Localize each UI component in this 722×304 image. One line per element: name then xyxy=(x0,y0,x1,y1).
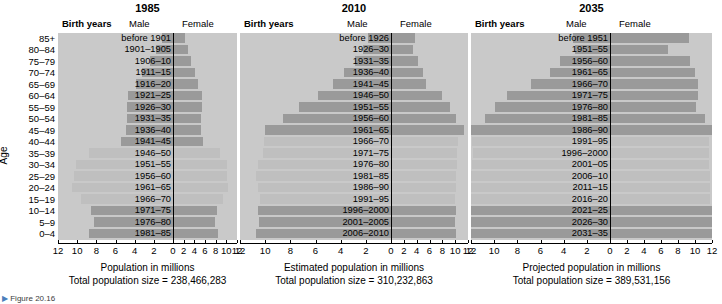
bar-female xyxy=(391,125,464,135)
bar-female xyxy=(391,171,456,181)
bar-female xyxy=(610,45,668,55)
birth-years-label: 1996–2000 xyxy=(240,205,389,216)
bar-female xyxy=(173,68,195,78)
x-axis-label: 6 xyxy=(106,245,126,256)
x-axis-tick xyxy=(455,240,456,243)
bar-female xyxy=(610,91,698,101)
bar-female xyxy=(610,68,695,78)
bar-female xyxy=(391,148,457,158)
birth-years-label: 2021–25 xyxy=(471,205,608,216)
x-axis-label: 12 xyxy=(230,245,250,256)
birth-years-label: 2016–20 xyxy=(471,194,608,205)
age-axis-label: 55–59 xyxy=(29,103,55,113)
x-axis-label: 12 xyxy=(702,245,722,256)
x-axis-tick xyxy=(494,240,495,243)
x-axis-tick xyxy=(341,240,342,243)
total-population-label: Total population size = 238,466,283 xyxy=(58,275,237,286)
birth-years-label: 2026–30 xyxy=(471,217,608,228)
x-axis-label: 10 xyxy=(484,245,504,256)
x-axis-tick xyxy=(226,240,227,243)
birth-years-label: before 1951 xyxy=(471,33,608,44)
x-axis-label: 2 xyxy=(577,245,597,256)
bar-female xyxy=(173,56,191,66)
age-axis-label: 85+ xyxy=(39,34,55,44)
birth-years-label: 1961–65 xyxy=(240,125,389,136)
birth-years-label: 1936–40 xyxy=(240,67,389,78)
x-axis-tick xyxy=(290,240,291,243)
age-axis-label: 80–84 xyxy=(29,45,55,55)
center-axis-line xyxy=(610,33,611,240)
x-axis-line xyxy=(58,243,237,244)
x-axis-label: 12 xyxy=(48,245,68,256)
birth-years-label: 1966–70 xyxy=(240,136,389,147)
bar-female xyxy=(610,148,709,158)
bar-female xyxy=(610,183,710,193)
age-axis-title: Age xyxy=(0,146,9,164)
age-axis-label: 10–14 xyxy=(29,206,55,216)
age-axis-label: 25–29 xyxy=(29,172,55,182)
bar-female xyxy=(610,160,709,170)
x-axis-tick xyxy=(77,240,78,243)
bar-female xyxy=(610,171,710,181)
x-axis-tick xyxy=(194,240,195,243)
birth-years-label: 1971–75 xyxy=(240,148,389,159)
bar-female xyxy=(391,194,455,204)
center-axis-line xyxy=(173,33,174,240)
x-axis-tick xyxy=(135,240,136,243)
x-axis-label: 10 xyxy=(67,245,87,256)
bar-female xyxy=(173,206,217,216)
birth-years-label: 2001–05 xyxy=(471,159,608,170)
bar-female xyxy=(173,137,203,147)
bar-female xyxy=(610,114,705,124)
header-male: Male xyxy=(347,18,368,31)
figure-caption: ▶ Figure 20.16 xyxy=(2,294,55,303)
total-population-label: Total population size = 389,531,156 xyxy=(471,275,712,286)
x-axis-label: 12 xyxy=(461,245,481,256)
header-female: Female xyxy=(619,18,651,31)
x-axis-tick xyxy=(644,240,645,243)
bar-female xyxy=(610,125,712,135)
bar-female xyxy=(173,91,202,101)
bar-female xyxy=(173,125,201,135)
age-axis-label: 30–34 xyxy=(29,160,55,170)
birth-years-label: 1926–30 xyxy=(58,102,171,113)
birth-years-label: 1981–85 xyxy=(240,171,389,182)
x-axis-tick xyxy=(610,240,611,243)
birth-years-label: 1996–2000 xyxy=(471,148,608,159)
birth-years-label: before 1901 xyxy=(58,33,171,44)
bar-female xyxy=(391,33,415,43)
bar-female xyxy=(173,217,215,227)
x-axis-tick xyxy=(627,240,628,243)
x-axis-tick xyxy=(173,240,174,243)
age-axis-label: 15–19 xyxy=(29,195,55,205)
x-axis-tick xyxy=(366,240,367,243)
x-axis-tick xyxy=(430,240,431,243)
bar-female xyxy=(391,45,413,55)
x-axis-line xyxy=(240,243,468,244)
figure-caption-text: Figure 20.16 xyxy=(10,294,55,303)
birth-years-label: 1906–10 xyxy=(58,56,171,67)
bar-female xyxy=(173,160,227,170)
age-axis-label: 65–69 xyxy=(29,80,55,90)
birth-years-label: 1991–95 xyxy=(240,194,389,205)
birth-years-label: 1981–85 xyxy=(471,113,608,124)
x-axis-tick xyxy=(468,240,469,243)
x-axis-tick xyxy=(587,240,588,243)
birth-years-label: 1971–75 xyxy=(58,205,171,216)
age-axis-label: 20–24 xyxy=(29,183,55,193)
x-axis-tick xyxy=(58,240,59,243)
birth-years-label: 1946–50 xyxy=(240,90,389,101)
pyramid-panel-2035: 2035Birth yearsMaleFemalebefore 19511951… xyxy=(471,0,712,304)
bar-female xyxy=(173,183,228,193)
bar-female xyxy=(391,229,456,239)
birth-years-label: 1976–80 xyxy=(240,159,389,170)
birth-years-label: 2001–2005 xyxy=(240,217,389,228)
birth-years-label: 1986–90 xyxy=(471,125,608,136)
birth-years-label: 1926–30 xyxy=(240,44,389,55)
age-axis-label: 60–64 xyxy=(29,91,55,101)
x-axis-tick xyxy=(417,240,418,243)
birth-years-label: 1951–55 xyxy=(471,44,608,55)
bar-female xyxy=(173,171,227,181)
birth-years-label: 1946–50 xyxy=(58,148,171,159)
